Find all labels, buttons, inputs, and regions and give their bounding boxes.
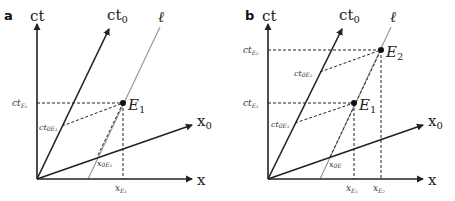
event-E2-label: E2 <box>385 43 403 62</box>
x-E2-label: xE₂ <box>373 183 385 194</box>
x-E1-label: xE₁ <box>346 183 358 194</box>
panel-label-b: b <box>245 8 254 23</box>
event-E2-point <box>378 47 384 53</box>
ct-E1-label: ctE₁ <box>243 98 258 109</box>
ct0-E1-label: ct0E₁ <box>39 123 57 132</box>
x-axis-label: x <box>428 171 437 189</box>
panel-b: b ct ct0 ℓ x0 x E1 E2 ctE₂ ctE₁ ct0E₂ ct… <box>243 6 443 194</box>
event-E1-label: E1 <box>127 96 145 115</box>
event-E1-point <box>351 100 357 106</box>
ct0-axis-label: ct0 <box>339 6 360 25</box>
x-axis-label: x <box>197 171 206 189</box>
ct-E2-label: ctE₂ <box>243 45 259 56</box>
ct0-axis-label: ct0 <box>107 6 128 25</box>
x0-axis-label: x0 <box>428 112 443 131</box>
ct0-E2-label: ct0E₂ <box>294 69 313 78</box>
x0-axis <box>37 125 192 179</box>
panel-a: a ct ct0 ℓ x0 x E1 ctE₁ ct0E₁ x0E₁ xE₁ <box>4 6 212 194</box>
ct-axis-label: ct <box>30 7 44 25</box>
x-E1-label: xE₁ <box>115 183 127 194</box>
x0-E1-label: x0E₁ <box>97 159 112 168</box>
event-E1-point <box>120 100 126 106</box>
ct0-E1-label: ct0E₁ <box>271 120 289 129</box>
spacetime-diagram-figure: a ct ct0 ℓ x0 x E1 ctE₁ ct0E₁ x0E₁ xE₁ b <box>0 0 455 201</box>
x0-E-label: x0E <box>329 160 342 169</box>
worldline-label: ℓ <box>390 8 396 26</box>
x0-axis-label: x0 <box>197 112 212 131</box>
ct-E1-label: ctE₁ <box>12 98 27 109</box>
panel-label-a: a <box>4 8 13 23</box>
event-E1-label: E1 <box>358 96 376 115</box>
worldline-label: ℓ <box>158 8 164 26</box>
ct-axis-label: ct <box>262 7 276 25</box>
